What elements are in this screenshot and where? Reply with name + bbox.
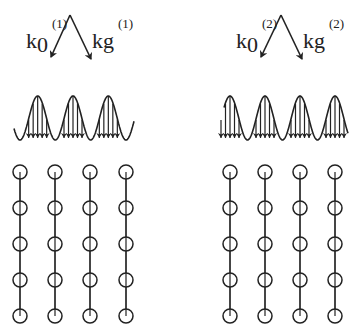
standing-wave-1 bbox=[14, 96, 134, 140]
standing-wave-2 bbox=[221, 96, 348, 140]
panel-2: k0 (2) kg (2) bbox=[221, 15, 348, 323]
intensity-curve bbox=[224, 96, 348, 140]
wavevector-diagram-2: k0 (2) kg (2) bbox=[236, 15, 344, 59]
k0-superscript-1: (1) bbox=[52, 16, 67, 31]
bloch-wave-diagram: k0 (1) kg (1) k0 (2) kg (2) bbox=[0, 0, 354, 331]
diffracted-wavevector-arrow bbox=[281, 15, 302, 59]
atom-lattice-2 bbox=[223, 165, 342, 323]
intensity-curve bbox=[14, 96, 134, 140]
kg-superscript-1: (1) bbox=[118, 16, 133, 31]
k0-label-2: k0 bbox=[236, 28, 258, 57]
diffracted-wavevector-arrow bbox=[70, 15, 91, 59]
kg-superscript-2: (2) bbox=[329, 16, 344, 31]
k0-superscript-2: (2) bbox=[262, 16, 277, 31]
atom-lattice-1 bbox=[13, 165, 133, 323]
kg-label-1: kg bbox=[92, 28, 114, 53]
kg-label-2: kg bbox=[303, 28, 325, 53]
panel-1: k0 (1) kg (1) bbox=[13, 15, 134, 323]
k0-label-1: k0 bbox=[26, 28, 48, 57]
wavevector-diagram-1: k0 (1) kg (1) bbox=[26, 15, 133, 59]
